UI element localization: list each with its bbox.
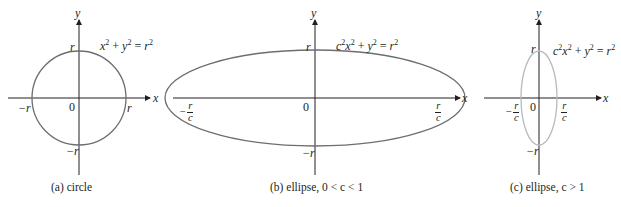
origin-label: 0 (303, 101, 309, 113)
tick-left: −rc (180, 101, 194, 123)
caption: (c) ellipse, c > 1 (510, 182, 585, 194)
caption: (a) circle (51, 182, 92, 194)
caption: (b) ellipse, 0 < c < 1 (270, 182, 363, 194)
panel-b-graph (165, 20, 465, 175)
tick-right: r (127, 102, 132, 114)
tick-right: rc (435, 101, 442, 123)
figure-canvas (0, 0, 621, 207)
origin-label: 0 (530, 101, 536, 113)
tick-left: −rc (506, 101, 520, 123)
x-axis-label: x (603, 92, 608, 104)
tick-top: r (306, 41, 311, 53)
tick-bottom: −r (66, 145, 79, 157)
tick-top: r (531, 43, 536, 55)
tick-right: rc (561, 101, 568, 123)
y-axis-label: y (75, 7, 80, 19)
y-axis-label: y (311, 7, 316, 19)
tick-bottom: −r (302, 147, 315, 159)
equation: c2x2 + y2 = r2 (336, 39, 398, 52)
tick-left: −r (18, 102, 31, 114)
y-axis-label: y (536, 7, 541, 19)
equation: c2x2 + y2 = r2 (553, 44, 615, 57)
equation: x2 + y2 = r2 (100, 39, 153, 52)
origin-label: 0 (69, 101, 75, 113)
x-axis-label: x (153, 92, 158, 104)
tick-bottom: −r (526, 145, 539, 157)
x-axis-label: x (462, 92, 467, 104)
tick-top: r (70, 41, 75, 53)
